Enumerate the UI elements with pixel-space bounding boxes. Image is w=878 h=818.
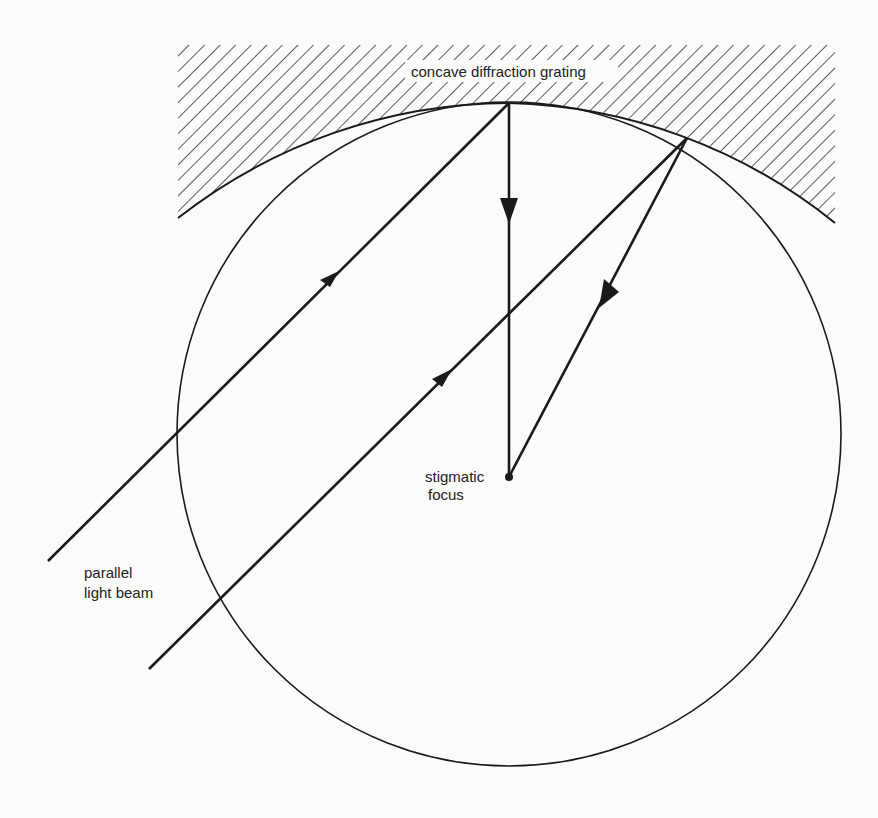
arrowhead-icon [432,369,452,387]
arrowhead-icon [500,198,518,224]
beam-label-line1: parallel [84,564,132,581]
beam-label-line2: light beam [84,584,153,601]
diffracted-ray-2 [509,138,687,477]
focus-label-line2: focus [428,486,464,503]
incident-ray-2 [149,138,687,669]
focus-point [505,473,513,481]
rowland-circle-diagram: concave diffraction grating stigmatic fo… [0,0,878,818]
arrowhead-icon [320,271,339,287]
grating-label: concave diffraction grating [411,63,586,80]
focus-label-line1: stigmatic [425,468,485,485]
arrowhead-icon [599,279,619,308]
